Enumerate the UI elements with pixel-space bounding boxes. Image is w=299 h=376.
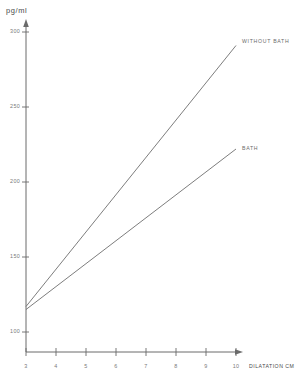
x-tick-label-8: 8 <box>171 363 181 369</box>
x-tick-label-3: 3 <box>21 363 31 369</box>
series-label-bath: BATH <box>242 145 258 151</box>
series-line-without-bath <box>26 46 236 307</box>
y-tick-label-100: 100 <box>2 328 20 334</box>
x-tick-label-10: 10 <box>231 363 241 369</box>
y-tick-label-250: 250 <box>2 103 20 109</box>
series-line-bath <box>26 149 236 310</box>
y-tick-label-300: 300 <box>2 28 20 34</box>
x-tick-label-6: 6 <box>111 363 121 369</box>
x-tick-label-4: 4 <box>51 363 61 369</box>
x-tick-label-5: 5 <box>81 363 91 369</box>
x-tick-label-7: 7 <box>141 363 151 369</box>
x-tick-label-9: 9 <box>201 363 211 369</box>
x-axis-label: DILATATION CM <box>249 363 294 369</box>
y-axis <box>23 19 29 352</box>
chart-container: pg/ml DILATATION CM 300 250 200 150 100 … <box>0 0 299 376</box>
y-tick-label-150: 150 <box>2 253 20 259</box>
chart-plot-area <box>0 0 299 376</box>
series-label-without-bath: WITHOUT BATH <box>242 38 289 44</box>
x-axis <box>26 349 243 355</box>
y-axis-label: pg/ml <box>6 6 27 15</box>
y-tick-label-200: 200 <box>2 178 20 184</box>
